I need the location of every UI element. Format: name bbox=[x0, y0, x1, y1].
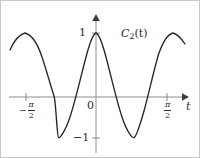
fraction-denominator: 2 bbox=[28, 112, 35, 120]
fraction-numerator: π bbox=[164, 101, 171, 109]
fraction-denominator: 2 bbox=[164, 112, 171, 120]
x-axis bbox=[9, 93, 189, 101]
curve-label: C2(t) bbox=[121, 28, 147, 41]
fraction-stack: π 2 bbox=[164, 101, 171, 120]
x-tick-label-negative-half-pi: − π 2 bbox=[19, 101, 35, 120]
y-tick-label-one: 1 bbox=[79, 27, 86, 38]
plot-canvas bbox=[1, 1, 200, 158]
fraction-stack: π 2 bbox=[28, 101, 35, 120]
x-tick-label-positive-half-pi: π 2 bbox=[163, 101, 171, 120]
origin-label: 0 bbox=[87, 100, 94, 111]
curve-label-argument: (t) bbox=[134, 27, 147, 40]
math-figure: 1 −1 0 t − π 2 π 2 C2(t) bbox=[0, 0, 200, 158]
curve-c2 bbox=[10, 33, 185, 138]
y-tick-label-negative-one: −1 bbox=[73, 132, 89, 143]
fraction-numerator: π bbox=[28, 101, 35, 109]
minus-sign: − bbox=[19, 105, 27, 115]
x-axis-label: t bbox=[186, 101, 190, 112]
y-axis-arrowhead bbox=[92, 14, 99, 21]
